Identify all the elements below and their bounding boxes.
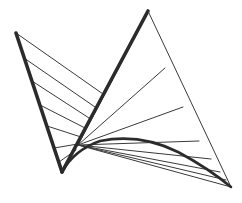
line-drawing-canvas	[0, 0, 242, 203]
figure-svg	[0, 0, 242, 203]
background	[0, 0, 242, 203]
